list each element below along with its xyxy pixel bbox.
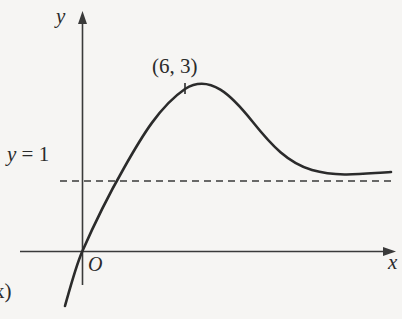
asymptote-label-value: = 1 [16, 142, 49, 166]
asymptote-label-variable: y [7, 142, 16, 166]
function-label-clipped: (x) [0, 281, 12, 302]
asymptote-label: y = 1 [7, 144, 49, 165]
graph-canvas [0, 0, 402, 319]
function-curve [65, 84, 391, 306]
x-axis [20, 247, 396, 256]
y-axis-arrowhead [78, 11, 87, 24]
function-graph-figure: y x O y = 1 (6, 3) (x) [0, 0, 402, 319]
origin-label: O [88, 254, 102, 274]
maximum-point-label: (6, 3) [152, 56, 198, 77]
y-axis-label: y [56, 6, 65, 27]
x-axis-label: x [388, 252, 397, 273]
